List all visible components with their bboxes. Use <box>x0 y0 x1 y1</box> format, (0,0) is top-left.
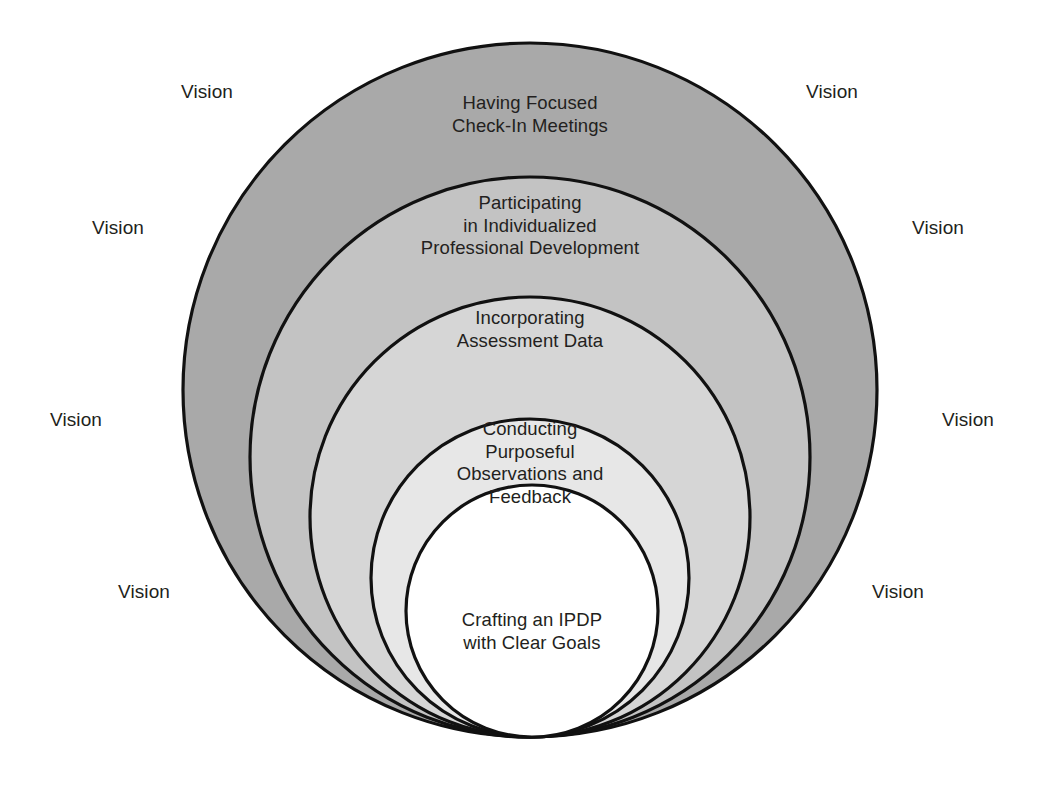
nested-circles-diagram: Having Focused Check-In Meetings Partici… <box>0 0 1046 801</box>
ring-5-circle <box>406 485 658 737</box>
concentric-rings-graphic <box>0 0 1046 801</box>
